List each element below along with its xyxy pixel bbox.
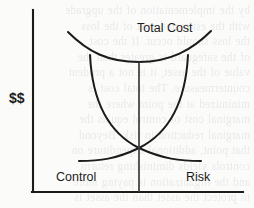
total-cost-label: Total Cost: [137, 21, 193, 35]
y-axis-label: $$: [9, 91, 25, 105]
risk-label: Risk: [186, 170, 210, 184]
scanned-figure-page: by the implementation of the upgrade wit…: [0, 0, 254, 208]
cost-risk-diagram: [0, 0, 254, 208]
control-label: Control: [56, 170, 96, 184]
